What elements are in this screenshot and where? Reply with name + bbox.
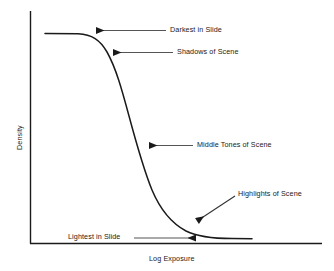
annotation-label-darkest-in-slide: Darkest in Slide	[170, 26, 222, 33]
annotation-label-highlights-of-scene: Highlights of Scene	[238, 190, 302, 197]
characteristic-curve-figure: Darkest in Slide Shadows of Scene Middle…	[0, 0, 334, 271]
y-axis-title: Density	[16, 125, 23, 150]
annotation-label-lightest-in-slide: Lightest in Slide	[68, 233, 120, 240]
characteristic-curve	[45, 34, 252, 239]
annotation-label-middle-tones: Middle Tones of Scene	[197, 141, 272, 148]
leader-highlights-of-scene	[197, 196, 235, 221]
figure-canvas	[0, 0, 334, 271]
annotation-label-shadows-of-scene: Shadows of Scene	[177, 48, 239, 55]
x-axis-title: Log Exposure	[149, 255, 195, 262]
